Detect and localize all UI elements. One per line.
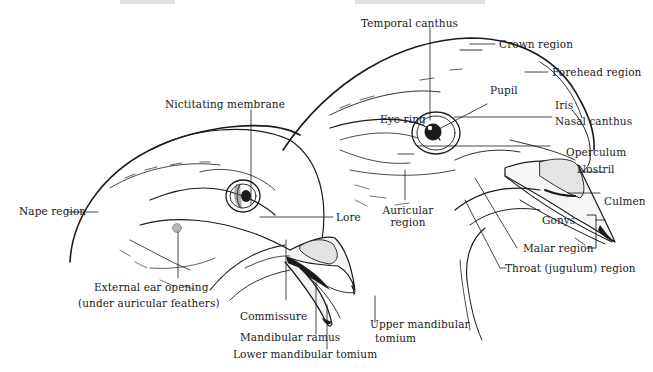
left-pupil (241, 190, 251, 202)
label-nictitating-membrane: Nictitating membrane (165, 98, 285, 110)
label-auricular-region-line2: region (380, 216, 436, 228)
label-external-ear-line1: External ear opening (94, 281, 208, 293)
label-upper-mandibular-tomium-line2: tomium (375, 332, 416, 344)
label-operculum: Operculum (566, 146, 626, 158)
right-pupil (425, 124, 442, 141)
leader-throat (465, 200, 506, 268)
label-nape-region: Nape region (19, 205, 86, 217)
label-auricular-region-line1: Auricular (380, 204, 436, 216)
label-mandibular-ramus: Mandibular ramus (240, 331, 340, 343)
label-iris: Iris (555, 99, 573, 111)
label-forehead-region: Forehead region (552, 66, 641, 78)
bird-head-anatomy-diagram: Nictitating membrane Nape region Lore Ex… (0, 0, 653, 372)
label-malar-region: Malar region (523, 242, 594, 254)
bird-heads-illustration (0, 0, 653, 372)
label-external-ear-line2: (under auricular feathers) (78, 297, 220, 309)
label-nasal-canthus: Nasal canthus (555, 115, 632, 127)
label-culmen: Culmen (604, 195, 646, 207)
label-temporal-canthus: Temporal canthus (361, 17, 458, 29)
label-gonys: Gonys (542, 214, 575, 226)
label-commissure: Commissure (240, 310, 307, 322)
left-head-drawing (68, 110, 375, 349)
label-nostril: Nostril (577, 163, 615, 175)
label-lore: Lore (336, 211, 361, 223)
label-throat-region: Throat (jugulum) region (505, 262, 636, 274)
label-upper-mandibular-tomium-line1: Upper mandibular (370, 318, 470, 330)
label-lower-mandibular-tomium: Lower mandibular tomium (233, 348, 377, 360)
label-crown-region: Crown region (499, 38, 573, 50)
label-pupil: Pupil (490, 84, 518, 96)
external-ear-opening (173, 224, 182, 233)
label-eye-ring: Eye ring (380, 113, 426, 125)
